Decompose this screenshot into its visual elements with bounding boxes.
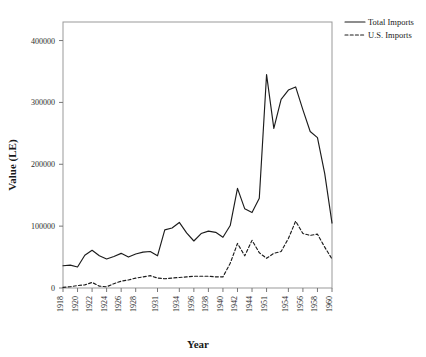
x-tick-label: 1926 <box>114 296 123 312</box>
legend-label-2: U.S. Imports <box>368 30 412 40</box>
x-tick-label: 1918 <box>56 296 65 312</box>
y-tick-label: 0 <box>51 284 55 293</box>
x-tick-label: 1928 <box>129 296 138 312</box>
y-tick-label: 100000 <box>31 222 55 231</box>
y-tick-label: 400000 <box>31 37 55 46</box>
legend-label-1: Total Imports <box>368 17 414 27</box>
x-tick-label: 1920 <box>71 296 80 312</box>
x-tick-label: 1938 <box>201 296 210 312</box>
y-tick-label: 300000 <box>31 98 55 107</box>
x-axis-title: Year <box>187 338 209 350</box>
x-tick-label: 1956 <box>296 296 305 312</box>
x-tick-label: 1942 <box>230 296 239 312</box>
x-tick-label: 1931 <box>151 296 160 312</box>
y-tick-label: 200000 <box>31 160 55 169</box>
x-tick-label: 1936 <box>187 296 196 312</box>
x-tick-label: 1934 <box>172 296 181 312</box>
x-tick-label: 1958 <box>310 296 319 312</box>
imports-line-chart: 0100000200000300000400000 19181920192219… <box>0 0 426 357</box>
x-tick-label: 1960 <box>325 296 334 312</box>
x-tick-label: 1954 <box>281 296 290 312</box>
x-tick-label: 1940 <box>216 296 225 312</box>
x-tick-label: 1922 <box>85 296 94 312</box>
chart-page: 0100000200000300000400000 19181920192219… <box>0 0 426 357</box>
y-axis-title: Value (LE) <box>6 139 19 191</box>
x-tick-label: 1924 <box>100 296 109 312</box>
x-tick-label: 1951 <box>260 296 269 312</box>
x-tick-label: 1944 <box>245 296 254 312</box>
